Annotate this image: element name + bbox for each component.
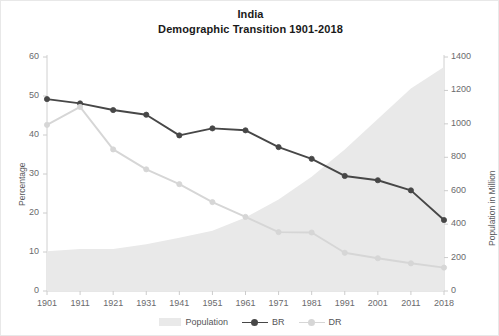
- legend-line-marker-icon: [242, 318, 268, 327]
- data-point-dr: [309, 230, 314, 235]
- x-axis-tick-label: 2018: [427, 298, 461, 308]
- data-point-br: [210, 126, 215, 131]
- series-group: [44, 67, 446, 291]
- data-point-dr: [276, 230, 281, 235]
- x-axis-tick-label: 1981: [295, 298, 329, 308]
- data-point-br: [375, 178, 380, 183]
- y-axis-left-tick-label: 0: [13, 285, 39, 295]
- data-point-br: [44, 97, 49, 102]
- y-axis-right-tick-label: 800: [451, 151, 483, 161]
- data-point-dr: [111, 147, 116, 152]
- data-point-br: [342, 173, 347, 178]
- y-axis-left-tick-label: 50: [13, 90, 39, 100]
- data-point-dr: [177, 182, 182, 187]
- legend-item-dr[interactable]: DR: [299, 317, 342, 327]
- y-axis-right-tick-label: 1200: [451, 84, 483, 94]
- chart-container: India Demographic Transition 1901-2018 P…: [0, 0, 499, 336]
- y-axis-left-tick-label: 10: [13, 246, 39, 256]
- y-axis-right-tick-label: 1000: [451, 118, 483, 128]
- x-axis-tick-label: 2001: [361, 298, 395, 308]
- y-axis-right-tick-label: 600: [451, 185, 483, 195]
- data-point-br: [441, 217, 446, 222]
- y-axis-right-tick-label: 200: [451, 252, 483, 262]
- data-point-br: [144, 112, 149, 117]
- x-axis-tick-label: 1971: [262, 298, 296, 308]
- legend-label: BR: [272, 317, 285, 327]
- chart-legend: PopulationBRDR: [1, 317, 499, 327]
- data-point-dr: [44, 122, 49, 127]
- data-point-br: [177, 133, 182, 138]
- legend-line-marker-icon: [299, 318, 325, 327]
- data-point-dr: [375, 256, 380, 261]
- data-point-br: [408, 188, 413, 193]
- data-point-dr: [441, 265, 446, 270]
- legend-area-swatch-icon: [159, 318, 181, 326]
- x-axis-tick-label: 1961: [229, 298, 263, 308]
- data-point-dr: [243, 214, 248, 219]
- y-axis-right-tick-label: 400: [451, 218, 483, 228]
- data-point-dr: [342, 250, 347, 255]
- y-axis-right-tick-label: 0: [451, 285, 483, 295]
- data-point-br: [111, 107, 116, 112]
- y-axis-right-tick-label: 1400: [451, 51, 483, 61]
- y-axis-left-tick-label: 20: [13, 207, 39, 217]
- series-area-population: [47, 67, 444, 291]
- x-axis-tick-label: 1991: [328, 298, 362, 308]
- y-axis-left-tick-label: 40: [13, 129, 39, 139]
- x-axis-tick-label: 1911: [63, 298, 97, 308]
- legend-item-population[interactable]: Population: [159, 317, 228, 327]
- data-point-br: [243, 128, 248, 133]
- y-axis-left-tick-label: 30: [13, 168, 39, 178]
- y-axis-left-tick-label: 60: [13, 51, 39, 61]
- data-point-br: [309, 156, 314, 161]
- plot-area: [1, 1, 499, 336]
- legend-label: Population: [185, 317, 228, 327]
- data-point-dr: [210, 199, 215, 204]
- x-axis-tick-label: 2011: [394, 298, 428, 308]
- x-axis-tick-label: 1901: [30, 298, 64, 308]
- x-axis-tick-label: 1941: [162, 298, 196, 308]
- x-axis-tick-label: 1931: [129, 298, 163, 308]
- legend-item-br[interactable]: BR: [242, 317, 285, 327]
- data-point-dr: [77, 104, 82, 109]
- data-point-dr: [144, 167, 149, 172]
- legend-label: DR: [329, 317, 342, 327]
- data-point-br: [276, 144, 281, 149]
- x-axis-tick-label: 1951: [195, 298, 229, 308]
- data-point-dr: [408, 261, 413, 266]
- x-axis-tick-label: 1921: [96, 298, 130, 308]
